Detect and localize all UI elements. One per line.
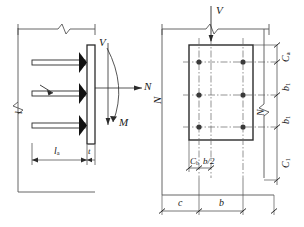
weld-triangle-3 xyxy=(79,115,87,136)
label-moment-left: M xyxy=(119,117,128,128)
anchor-length-sub: a xyxy=(57,149,60,156)
label-left-boundary-marker: l xyxy=(14,111,24,114)
label-edge-distance-b: Cb xyxy=(190,157,199,167)
edge-distance-1-main: C xyxy=(280,161,291,168)
label-shear-force-left: V xyxy=(99,37,106,48)
left-elevation-view xyxy=(13,24,142,192)
edge-distance-a-sub: a xyxy=(284,52,291,55)
label-axial-force-left: N xyxy=(144,81,151,92)
bolt-spacing-1-main: b xyxy=(280,86,291,91)
label-bolt-spacing-1: b1 xyxy=(281,83,292,91)
dimension-bottom-lower xyxy=(159,178,277,215)
base-plate xyxy=(87,45,95,144)
label-anchor-length: la xyxy=(54,146,60,157)
label-edge-distance-1: C1 xyxy=(281,158,292,168)
label-half-width: b/2 xyxy=(203,157,215,166)
label-dim-c: c xyxy=(178,198,182,208)
plan-shear-arrowhead xyxy=(209,35,214,42)
edge-distance-b-sub: b xyxy=(196,160,199,166)
edge-distance-a-main: C xyxy=(280,55,291,62)
break-symbol-top-left xyxy=(58,24,70,34)
label-dim-b: b xyxy=(219,198,224,208)
label-shear-force-plan: V xyxy=(216,5,223,16)
weld-triangle-1 xyxy=(79,52,87,73)
label-plan-reference-marker: N xyxy=(256,109,266,116)
anchor-rod-3 xyxy=(32,115,87,136)
moment-arc xyxy=(107,48,119,122)
anchor-bolt xyxy=(240,92,245,97)
anchor-bolt xyxy=(196,124,201,129)
bolt-spacing-1-sub: 1 xyxy=(284,83,291,86)
anchor-rod-2 xyxy=(32,83,87,104)
shear-arrowhead xyxy=(106,118,111,125)
bolt-spacing-2-sub: 1 xyxy=(284,116,291,119)
anchor-rod-1 xyxy=(32,52,87,73)
anchor-bolt xyxy=(240,124,245,129)
label-axial-force-plan: N xyxy=(152,97,163,104)
figure-container: V N M la t l V N N Ca b1 b1 C1 Cb b/2 c … xyxy=(0,0,304,227)
axial-arrowhead xyxy=(134,85,142,90)
edge-distance-1-sub: 1 xyxy=(284,158,291,161)
label-bolt-spacing-2: b1 xyxy=(281,116,292,124)
anchor-bolt xyxy=(196,92,201,97)
break-symbol-plan-top xyxy=(206,24,218,34)
weld-triangle-2 xyxy=(79,83,87,104)
anchor-bolt xyxy=(196,59,201,64)
bolt-spacing-2-main: b xyxy=(280,119,291,124)
label-edge-distance-a: Ca xyxy=(281,52,292,62)
label-plate-thickness: t xyxy=(88,147,91,156)
anchor-bolt xyxy=(240,59,245,64)
moment-arrowhead xyxy=(110,116,117,122)
